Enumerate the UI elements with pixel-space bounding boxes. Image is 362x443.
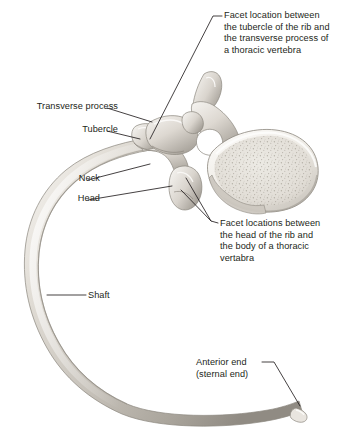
label-facet-location-tubercle-transverse-process: Facet location between the tubercle of t… [224,10,360,56]
label-shaft: Shaft [88,290,148,302]
rib-vertebra-anatomy-figure: Facet location between the tubercle of t… [0,0,362,443]
rib-head [169,166,202,210]
vertebra-superior-articular-process [182,112,203,134]
label-transverse-process: Transverse process [2,101,118,113]
label-neck: Neck [30,173,100,185]
label-facet-locations-head-body: Facet locations between the head of the … [220,218,360,264]
label-tubercle: Tubercle [2,124,118,136]
leader-head [88,186,172,200]
label-head: Head [30,193,100,205]
label-anterior-sternal-end: Anterior end (sternal end) [196,357,288,380]
